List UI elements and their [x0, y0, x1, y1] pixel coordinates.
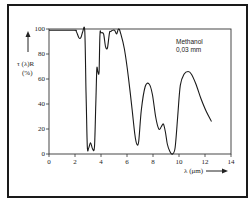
y-axis-ticks: 020406080100 [35, 25, 50, 158]
x-tick-label: 12 [202, 158, 210, 166]
x-tick-label: 8 [151, 158, 155, 166]
y-axis-label-line2: (%) [22, 69, 33, 77]
x-tick-label: 10 [176, 158, 184, 166]
y-tick-label: 100 [35, 25, 46, 33]
annotation-thickness: 0,03 mm [176, 46, 201, 53]
x-axis-label: λ (μm) [184, 167, 228, 175]
y-tick-label: 60 [38, 75, 46, 83]
x-arrow-head-icon [222, 169, 228, 174]
x-tick-label: 14 [228, 158, 236, 166]
y-arrow-head-icon [26, 31, 31, 37]
annotation-substance: Methanol [176, 38, 203, 45]
plot-box [49, 29, 231, 154]
y-tick-label: 0 [42, 150, 46, 158]
y-axis-label: τ (λ)R (%) [17, 31, 35, 77]
x-axis-label-text: λ (μm) [184, 167, 204, 175]
x-tick-label: 0 [47, 158, 51, 166]
y-axis-label-line1: τ (λ)R [17, 60, 35, 68]
y-tick-label: 80 [38, 50, 46, 58]
x-tick-label: 2 [73, 158, 77, 166]
transmittance-chart: 020406080100 02468101214 Methanol 0,03 m… [0, 0, 252, 202]
y-tick-label: 20 [38, 125, 46, 133]
x-tick-label: 6 [125, 158, 129, 166]
annotation: Methanol 0,03 mm [176, 38, 203, 53]
plot-area [49, 29, 231, 154]
x-axis-ticks: 02468101214 [47, 154, 235, 166]
x-tick-label: 4 [99, 158, 103, 166]
y-tick-label: 40 [38, 100, 46, 108]
